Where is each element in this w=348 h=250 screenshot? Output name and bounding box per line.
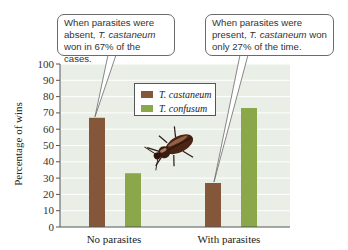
y-tick-labels: 0102030405060708090100 <box>38 58 61 233</box>
legend-item-confusum: T. confusum <box>141 102 207 114</box>
legend-item-castaneum: T. castaneum <box>141 88 212 100</box>
y-tick-label: 100 <box>38 58 55 70</box>
legend-label-confusum: T. confusum <box>159 103 207 114</box>
bar-confusum-no-parasites <box>125 173 141 227</box>
y-axis-label: Percentage of wins <box>12 84 24 204</box>
annotation-absent: When parasites were absent, T. castaneum… <box>57 14 175 56</box>
annotation-present-species: T. castaneum <box>249 29 306 40</box>
bar-confusum-with-parasites <box>241 108 257 227</box>
annotation-present: When parasites were present, T. castaneu… <box>205 14 334 56</box>
y-tick-label: 90 <box>43 74 55 86</box>
bar-castaneum-no-parasites <box>89 118 105 227</box>
x-tick-label-with-parasites: With parasites <box>174 233 284 245</box>
y-tick-label: 50 <box>43 139 55 151</box>
y-tick-label: 40 <box>43 155 55 167</box>
y-tick-label: 0 <box>49 221 55 233</box>
y-tick-label: 20 <box>43 188 55 200</box>
y-tick-label: 60 <box>43 123 55 135</box>
legend-swatch-confusum <box>141 105 153 112</box>
x-tick-label-no-parasites: No parasites <box>59 233 169 245</box>
annotation-absent-species: T. castaneum <box>98 29 155 40</box>
legend: T. castaneum T. confusum <box>134 83 216 116</box>
legend-label-castaneum: T. castaneum <box>159 89 212 100</box>
y-tick-label: 30 <box>43 172 55 184</box>
legend-swatch-castaneum <box>141 91 153 98</box>
y-tick-label: 80 <box>43 90 55 102</box>
bar-castaneum-with-parasites <box>205 183 221 227</box>
y-tick-label: 10 <box>43 204 55 216</box>
y-tick-label: 70 <box>43 106 55 118</box>
